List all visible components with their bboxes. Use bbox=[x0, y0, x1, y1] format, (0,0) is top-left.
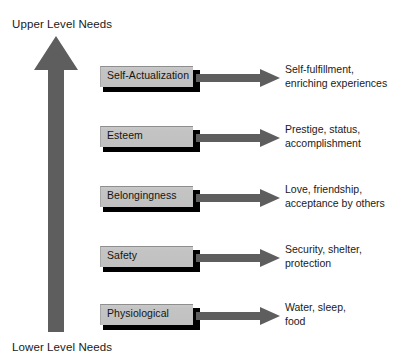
level-label-box: Belongingness bbox=[100, 186, 197, 211]
level-label-box: Self-Actualization bbox=[100, 66, 197, 91]
need-level-row: Self-Actualization Self-fulfillment, enr… bbox=[0, 66, 408, 106]
description-line-1: Love, friendship, bbox=[285, 183, 407, 197]
description-line-2: enriching experiences bbox=[285, 77, 407, 91]
right-arrow-icon bbox=[196, 189, 280, 207]
level-label-text: Self-Actualization bbox=[107, 69, 189, 81]
level-label-box: Safety bbox=[100, 246, 197, 271]
level-label-text: Physiological bbox=[107, 307, 169, 319]
description-line-1: Security, shelter, bbox=[285, 243, 407, 257]
level-label-box: Esteem bbox=[100, 126, 197, 151]
description-line-2: protection bbox=[285, 257, 407, 271]
description-line-2: accomplishment bbox=[285, 137, 407, 151]
level-label-text: Safety bbox=[107, 249, 137, 261]
level-description: Love, friendship, acceptance by others bbox=[285, 183, 407, 210]
need-level-row: Belongingness Love, friendship, acceptan… bbox=[0, 186, 408, 226]
right-arrow-icon bbox=[196, 249, 280, 267]
description-line-2: food bbox=[285, 315, 407, 329]
description-line-1: Self-fulfillment, bbox=[285, 63, 407, 77]
level-description: Security, shelter, protection bbox=[285, 243, 407, 270]
level-label-text: Belongingness bbox=[107, 189, 177, 201]
need-level-row: Physiological Water, sleep, food bbox=[0, 304, 408, 344]
level-label-box: Physiological bbox=[100, 304, 197, 329]
need-level-row: Esteem Prestige, status, accomplishment bbox=[0, 126, 408, 166]
description-line-2: acceptance by others bbox=[285, 197, 407, 211]
right-arrow-icon bbox=[196, 69, 280, 87]
level-description: Prestige, status, accomplishment bbox=[285, 123, 407, 150]
need-level-row: Safety Security, shelter, protection bbox=[0, 246, 408, 286]
description-line-1: Prestige, status, bbox=[285, 123, 407, 137]
right-arrow-icon bbox=[196, 129, 280, 147]
level-label-text: Esteem bbox=[107, 129, 143, 141]
level-description: Water, sleep, food bbox=[285, 301, 407, 328]
maslow-hierarchy-diagram: Upper Level Needs Self-Actualization Sel… bbox=[0, 0, 408, 361]
description-line-1: Water, sleep, bbox=[285, 301, 407, 315]
right-arrow-icon bbox=[196, 307, 280, 325]
lower-level-needs-caption: Lower Level Needs bbox=[12, 341, 112, 353]
upper-level-needs-caption: Upper Level Needs bbox=[12, 18, 112, 30]
level-description: Self-fulfillment, enriching experiences bbox=[285, 63, 407, 90]
